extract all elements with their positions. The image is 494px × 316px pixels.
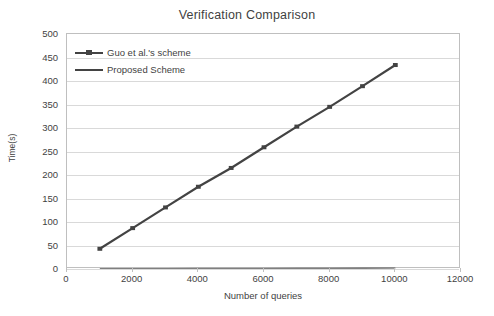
x-tick-label: 4000 [187,273,208,284]
legend-label-guo: Guo et al.'s scheme [107,47,191,58]
legend-label-proposed: Proposed Scheme [107,64,185,75]
x-tick-label: 10000 [381,273,407,284]
x-tick-mark [329,268,330,272]
x-tick-label: 8000 [318,273,339,284]
x-tick-mark [66,268,67,272]
x-tick-mark [132,268,133,272]
legend-line-icon-proposed [75,69,103,71]
x-tick-label: 2000 [121,273,142,284]
x-tick-mark [197,268,198,272]
legend-item-proposed: Proposed Scheme [67,61,191,78]
x-tick-label: 12000 [447,273,473,284]
legend-item-guo: Guo et al.'s scheme [67,44,191,61]
x-tick-mark [460,268,461,272]
x-tick-label: 0 [63,273,68,284]
x-tick-mark [263,268,264,272]
chart-legend: Guo et al.'s scheme Proposed Scheme [67,42,191,80]
x-tick-mark [394,268,395,272]
legend-line-icon-guo [75,52,103,54]
chart-container: Verification Comparison 0501001502002503… [0,0,494,316]
x-tick-label: 6000 [252,273,273,284]
x-axis-title: Number of queries [66,290,460,301]
